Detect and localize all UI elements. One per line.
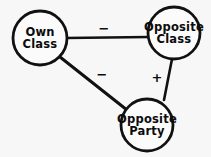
edge-opposite-class-opposite-party bbox=[164, 59, 172, 100]
node-opposite-party-label-line2: Party bbox=[129, 124, 165, 138]
edge-sign-own-class-opposite-party: − bbox=[97, 67, 108, 82]
diagram-canvas: Own Class Opposite Class Opposite Party … bbox=[0, 0, 211, 157]
node-own-class: Own Class bbox=[13, 11, 67, 65]
node-opposite-party: Opposite Party bbox=[117, 99, 177, 151]
edge-own-class-opposite-party bbox=[60, 57, 127, 110]
edge-sign-opposite-class-opposite-party: + bbox=[152, 70, 163, 85]
node-opposite-class-label-line2: Class bbox=[157, 32, 192, 46]
node-own-class-label-line2: Class bbox=[23, 37, 58, 51]
edge-sign-own-class-opposite-class: − bbox=[99, 21, 110, 36]
edge-own-class-opposite-class bbox=[66, 37, 149, 38]
node-opposite-class: Opposite Class bbox=[144, 7, 204, 59]
signed-relations-diagram: Own Class Opposite Class Opposite Party … bbox=[0, 0, 211, 157]
